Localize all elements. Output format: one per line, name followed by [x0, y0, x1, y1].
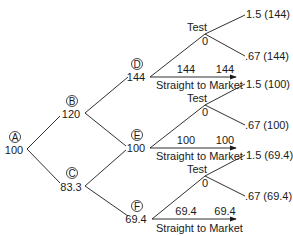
svg-text:69.4: 69.4: [125, 213, 146, 225]
svg-text:F: F: [134, 201, 140, 212]
market-right-value: 69.4: [214, 205, 235, 217]
node-c: C 83.3: [60, 168, 81, 194]
decision-tree: A 100 B 120 C 83.3 D 144 E 100 F 69.4 Te…: [0, 0, 293, 236]
market-right-value: 100: [216, 134, 234, 146]
test-up-payoff: 1.5 (144): [246, 8, 290, 20]
test-up-payoff: 1.5 (100): [246, 78, 290, 90]
node-f: F 69.4: [125, 201, 146, 226]
svg-text:C: C: [68, 168, 75, 179]
market-label: Straight to Market: [156, 150, 243, 162]
node-b: B 120: [62, 96, 80, 121]
test-value: 0: [202, 35, 208, 47]
svg-text:D: D: [133, 59, 140, 70]
market-left-value: 144: [177, 63, 195, 75]
test-label: Test: [187, 92, 207, 104]
test-down-payoff: .67 (100): [245, 119, 289, 131]
test-value: 0: [202, 177, 208, 189]
test-value: 0: [202, 106, 208, 118]
market-left-value: 100: [177, 134, 195, 146]
market-label: Straight to Market: [156, 79, 243, 91]
market-label: Straight to Market: [156, 222, 243, 234]
svg-text:83.3: 83.3: [60, 181, 81, 193]
svg-text:E: E: [134, 130, 141, 141]
market-right-value: 144: [216, 63, 234, 75]
test-label: Test: [187, 163, 207, 175]
test-up-payoff: 1.5 (69.4): [246, 149, 293, 161]
market-left-value: 69.4: [175, 205, 196, 217]
svg-text:A: A: [12, 132, 19, 143]
test-down-payoff: .67 (69.4): [245, 190, 292, 202]
node-e: E 100: [127, 130, 145, 155]
svg-text:100: 100: [127, 142, 145, 154]
test-down-payoff: .67 (144): [245, 50, 289, 62]
node-d: D 144: [127, 59, 145, 84]
svg-text:120: 120: [62, 108, 80, 120]
svg-text:B: B: [69, 96, 76, 107]
svg-text:100: 100: [5, 144, 23, 156]
test-label: Test: [187, 21, 207, 33]
node-a: A 100: [5, 132, 23, 157]
svg-text:144: 144: [127, 71, 145, 83]
